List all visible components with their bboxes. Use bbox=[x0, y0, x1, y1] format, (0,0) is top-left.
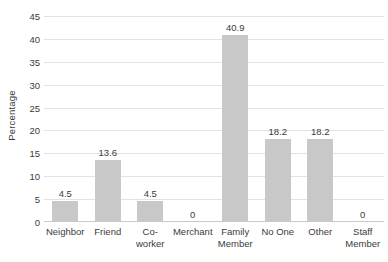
bar-slot: 18.2 bbox=[299, 16, 342, 222]
bar-slot: 0 bbox=[342, 16, 385, 222]
bar-chart: Percentage 454035302520151050 4.513.64.5… bbox=[0, 0, 388, 262]
y-tick-20: 20 bbox=[29, 125, 40, 136]
bar-value-label: 4.5 bbox=[144, 188, 157, 199]
bar[interactable] bbox=[222, 35, 248, 222]
x-label-line: Co-worker bbox=[129, 226, 172, 250]
y-tick-30: 30 bbox=[29, 79, 40, 90]
y-tick-0: 0 bbox=[35, 217, 40, 228]
bar[interactable] bbox=[137, 201, 163, 222]
y-axis-title-label: Percentage bbox=[6, 90, 17, 141]
x-label-neighbor: Neighbor bbox=[44, 226, 87, 238]
y-tick-5: 5 bbox=[35, 194, 40, 205]
bar-value-label: 18.2 bbox=[269, 126, 288, 137]
x-label-line: No One bbox=[257, 226, 300, 238]
x-label-merchant: Merchant bbox=[172, 226, 215, 238]
bar-slot: 13.6 bbox=[87, 16, 130, 222]
y-tick-15: 15 bbox=[29, 148, 40, 159]
bar-value-label: 0 bbox=[190, 209, 195, 220]
x-label-line: Member bbox=[214, 238, 257, 250]
bar-slot: 18.2 bbox=[257, 16, 300, 222]
x-label-line: Staff bbox=[342, 226, 385, 238]
bar[interactable] bbox=[265, 139, 291, 222]
bar-value-label: 4.5 bbox=[59, 188, 72, 199]
x-label-line: Member bbox=[342, 238, 385, 250]
bar-value-label: 0 bbox=[360, 209, 365, 220]
x-label-line: Merchant bbox=[172, 226, 215, 238]
y-tick-45: 45 bbox=[29, 11, 40, 22]
x-label-other: Other bbox=[299, 226, 342, 238]
bar[interactable] bbox=[95, 160, 121, 222]
bar-value-label: 40.9 bbox=[226, 22, 245, 33]
bar-series: 4.513.64.5040.918.218.20 bbox=[44, 16, 384, 222]
x-label-family-member: FamilyMember bbox=[214, 226, 257, 250]
plot-area: 4.513.64.5040.918.218.20 bbox=[44, 16, 384, 222]
bar-slot: 4.5 bbox=[44, 16, 87, 222]
bar-slot: 4.5 bbox=[129, 16, 172, 222]
y-tick-35: 35 bbox=[29, 56, 40, 67]
y-tick-25: 25 bbox=[29, 102, 40, 113]
x-label-line: Friend bbox=[87, 226, 130, 238]
y-axis-tick-labels: 454035302520151050 bbox=[18, 16, 40, 222]
x-axis-baseline bbox=[44, 221, 384, 222]
bar-value-label: 18.2 bbox=[311, 126, 330, 137]
x-label-no-one: No One bbox=[257, 226, 300, 238]
bar[interactable] bbox=[52, 201, 78, 222]
bar-slot: 0 bbox=[172, 16, 215, 222]
y-tick-10: 10 bbox=[29, 171, 40, 182]
x-axis-category-labels: NeighborFriendCo-workerMerchantFamilyMem… bbox=[44, 226, 384, 260]
bar[interactable] bbox=[307, 139, 333, 222]
x-label-staff-member: StaffMember bbox=[342, 226, 385, 250]
bar-slot: 40.9 bbox=[214, 16, 257, 222]
x-label-line: Neighbor bbox=[44, 226, 87, 238]
x-label-friend: Friend bbox=[87, 226, 130, 238]
y-tick-40: 40 bbox=[29, 33, 40, 44]
bar-value-label: 13.6 bbox=[99, 147, 118, 158]
x-label-co-worker: Co-worker bbox=[129, 226, 172, 250]
x-label-line: Family bbox=[214, 226, 257, 238]
x-label-line: Other bbox=[299, 226, 342, 238]
